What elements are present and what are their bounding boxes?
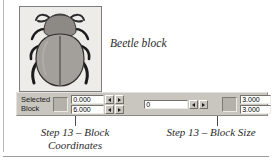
bottom-rule	[3, 156, 269, 157]
coordinate-x-input[interactable]: 0.000	[71, 95, 104, 104]
angle-increment-button[interactable]	[199, 100, 208, 109]
annotation-block-size: Step 13 – Block Size	[152, 126, 270, 139]
coordinate-y-decrement-button[interactable]	[105, 105, 114, 114]
block-size-group: 3.000 3.000	[240, 95, 272, 114]
middle-field-row: 0	[144, 100, 208, 109]
figure-caption: Beetle block	[110, 37, 167, 49]
leader-line-block-size	[217, 116, 218, 126]
selected-block-label-line1: Selected	[21, 95, 50, 104]
block-height-input[interactable]: 3.000	[240, 105, 271, 114]
block-coordinates-group: 0.000 6.000	[71, 95, 124, 114]
coordinate-y-input[interactable]: 6.000	[71, 105, 104, 114]
coordinate-x-row: 0.000	[71, 95, 124, 104]
block-toolbar: Selected Block 0.000 6.000 0	[16, 92, 268, 116]
block-width-row: 3.000	[240, 95, 272, 104]
block-height-row: 3.000	[240, 105, 272, 114]
block-color-swatch-left[interactable]	[53, 97, 68, 112]
leader-line-coordinates	[75, 116, 76, 126]
page-root: Beetle block Selected Block 0.000 6.000 …	[0, 0, 272, 164]
left-edge-rule	[3, 0, 4, 152]
beetle-illustration	[19, 6, 102, 92]
angle-input[interactable]: 0	[144, 100, 188, 109]
selected-block-label: Selected Block	[21, 95, 50, 113]
coordinate-x-increment-button[interactable]	[115, 95, 124, 104]
annotation-block-coordinates-line2: Coordinates	[14, 139, 136, 152]
annotation-block-coordinates-line1: Step 13 – Block	[14, 126, 136, 139]
annotation-block-coordinates: Step 13 – Block Coordinates	[14, 126, 136, 152]
coordinate-y-row: 6.000	[71, 105, 124, 114]
block-color-swatch-right[interactable]	[222, 97, 237, 112]
coordinate-x-decrement-button[interactable]	[105, 95, 114, 104]
selected-block-label-line2: Block	[21, 104, 50, 113]
block-width-input[interactable]: 3.000	[240, 95, 271, 104]
angle-decrement-button[interactable]	[189, 100, 198, 109]
coordinate-y-increment-button[interactable]	[115, 105, 124, 114]
beetle-drawing	[20, 7, 101, 91]
